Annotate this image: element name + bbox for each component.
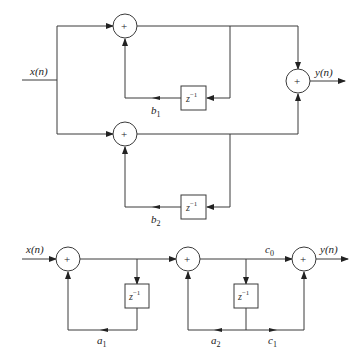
a1-arrow-icon xyxy=(100,328,108,332)
feedback2-arrow-icon xyxy=(152,205,160,209)
parallel-form-diagram: x(n) + z−1 b1 + z−1 b2 + xyxy=(22,14,345,228)
adder-2-plus: + xyxy=(121,128,127,140)
coef-a2: a2 xyxy=(211,334,221,349)
feedback1-arrow-icon xyxy=(152,96,160,100)
cascade-input-label: x(n) xyxy=(25,243,44,256)
input-label: x(n) xyxy=(29,65,48,78)
coef-c1: c1 xyxy=(268,334,277,349)
diagram-canvas: x(n) + z−1 b1 + z−1 b2 + xyxy=(0,0,360,358)
cascade-adder-1-plus: + xyxy=(64,253,70,265)
output-label: y(n) xyxy=(314,66,333,79)
coef-a1: a1 xyxy=(97,334,107,349)
a2-arrow-icon xyxy=(214,328,222,332)
c1-arrow-icon xyxy=(269,328,277,332)
coef-b2: b2 xyxy=(151,213,161,228)
cascade-form-diagram: x(n) + z−1 a1 + c0 z−1 a2 c1 + y(n) xyxy=(22,243,348,349)
cascade-output-label: y(n) xyxy=(319,243,338,256)
cascade-output-adder-plus: + xyxy=(300,253,306,265)
adder-1-plus: + xyxy=(121,20,127,32)
output-adder-plus: + xyxy=(294,75,300,87)
coef-c0: c0 xyxy=(265,243,274,258)
cascade-adder-2-plus: + xyxy=(184,253,190,265)
coef-b1: b1 xyxy=(151,104,161,119)
